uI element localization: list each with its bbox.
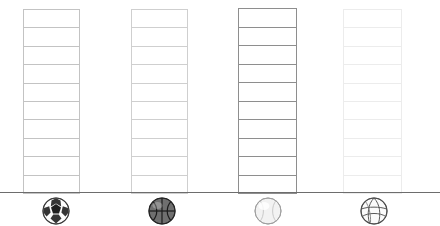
plot-area bbox=[0, 0, 440, 194]
bar-segment bbox=[344, 64, 401, 82]
category-icon-row bbox=[0, 194, 440, 226]
basketball-icon bbox=[147, 196, 177, 226]
bar-segment bbox=[132, 175, 187, 193]
bar-segment bbox=[24, 101, 79, 119]
bar-segment bbox=[344, 119, 401, 137]
bar-segment bbox=[132, 10, 187, 27]
bar-segment bbox=[24, 138, 79, 156]
bar-segment bbox=[24, 156, 79, 174]
bar-volleyball[interactable] bbox=[343, 9, 402, 194]
bar-segment bbox=[239, 27, 296, 46]
bar-segment bbox=[24, 119, 79, 137]
bar-segment bbox=[132, 46, 187, 64]
bar-segment bbox=[132, 27, 187, 45]
bar-segment bbox=[24, 175, 79, 193]
bar-baseball[interactable] bbox=[238, 8, 297, 194]
bar-segment bbox=[239, 119, 296, 138]
volleyball-icon bbox=[359, 196, 389, 226]
bar-segment bbox=[132, 138, 187, 156]
bar-segment bbox=[24, 64, 79, 82]
bar-segment bbox=[24, 10, 79, 27]
soccer-ball-icon bbox=[41, 196, 71, 226]
bar-segment bbox=[239, 45, 296, 64]
bar-segment bbox=[239, 64, 296, 83]
bar-segment bbox=[344, 46, 401, 64]
bar-segment bbox=[24, 46, 79, 64]
bar-soccer-ball[interactable] bbox=[23, 9, 80, 194]
bar-segment bbox=[344, 156, 401, 174]
bar-segment bbox=[24, 27, 79, 45]
bar-segment bbox=[344, 138, 401, 156]
bar-segment bbox=[239, 9, 296, 27]
bar-segment bbox=[344, 27, 401, 45]
bar-segment bbox=[239, 156, 296, 175]
baseball-icon bbox=[253, 196, 283, 226]
bar-segment bbox=[239, 175, 296, 194]
bar-segment bbox=[132, 64, 187, 82]
pictograph-bar-chart bbox=[0, 0, 440, 226]
bar-segment bbox=[239, 82, 296, 101]
bar-segment bbox=[24, 83, 79, 101]
bar-segment bbox=[344, 83, 401, 101]
bar-basketball[interactable] bbox=[131, 9, 188, 194]
bar-segment bbox=[344, 175, 401, 193]
bar-segment bbox=[239, 101, 296, 120]
bar-segment bbox=[132, 156, 187, 174]
bar-segment bbox=[132, 83, 187, 101]
bar-segment bbox=[344, 101, 401, 119]
bar-segment bbox=[344, 10, 401, 27]
bar-segment bbox=[132, 119, 187, 137]
baseline-axis bbox=[0, 192, 440, 193]
bar-segment bbox=[239, 138, 296, 157]
bar-segment bbox=[132, 101, 187, 119]
